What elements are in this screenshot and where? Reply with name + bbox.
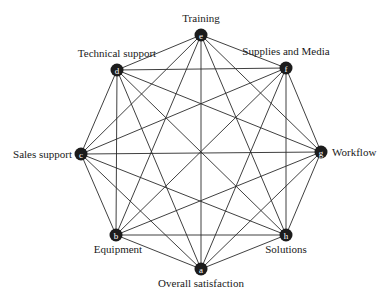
edge-f-g xyxy=(286,68,321,152)
node-label-c: Sales support xyxy=(13,148,72,160)
node-letter: h xyxy=(284,231,289,241)
edge-c-h xyxy=(81,154,286,235)
node-d: d xyxy=(111,64,124,77)
node-label-f: Supplies and Media xyxy=(242,45,329,57)
node-letter: g xyxy=(319,148,324,158)
node-label-h: Solutions xyxy=(265,243,307,255)
node-label-b: Equipment xyxy=(94,243,142,255)
node-b: b xyxy=(110,229,123,242)
edge-b-d xyxy=(116,70,117,235)
node-c: c xyxy=(75,148,88,161)
node-e: e xyxy=(195,29,208,42)
node-letter: a xyxy=(199,265,203,275)
node-label-g: Workflow xyxy=(332,146,376,158)
node-label-a: Overall satisfaction xyxy=(158,277,244,289)
edge-b-g xyxy=(116,152,321,235)
complete-graph-diagram: abcdefgh Overall satisfactionEquipmentSa… xyxy=(0,0,391,300)
node-g: g xyxy=(315,146,328,159)
node-letter: e xyxy=(199,31,203,41)
node-a: a xyxy=(195,263,208,276)
edge-a-d xyxy=(117,70,201,269)
edge-d-g xyxy=(117,70,321,152)
node-letter: d xyxy=(115,66,120,76)
node-letter: f xyxy=(285,64,288,74)
node-letter: c xyxy=(79,150,83,160)
edge-d-f xyxy=(117,68,286,70)
node-h: h xyxy=(280,229,293,242)
node-f: f xyxy=(280,62,293,75)
node-letter: b xyxy=(114,231,119,241)
node-label-e: Training xyxy=(182,12,220,24)
node-label-d: Technical support xyxy=(78,47,156,59)
edge-e-h xyxy=(201,35,286,235)
